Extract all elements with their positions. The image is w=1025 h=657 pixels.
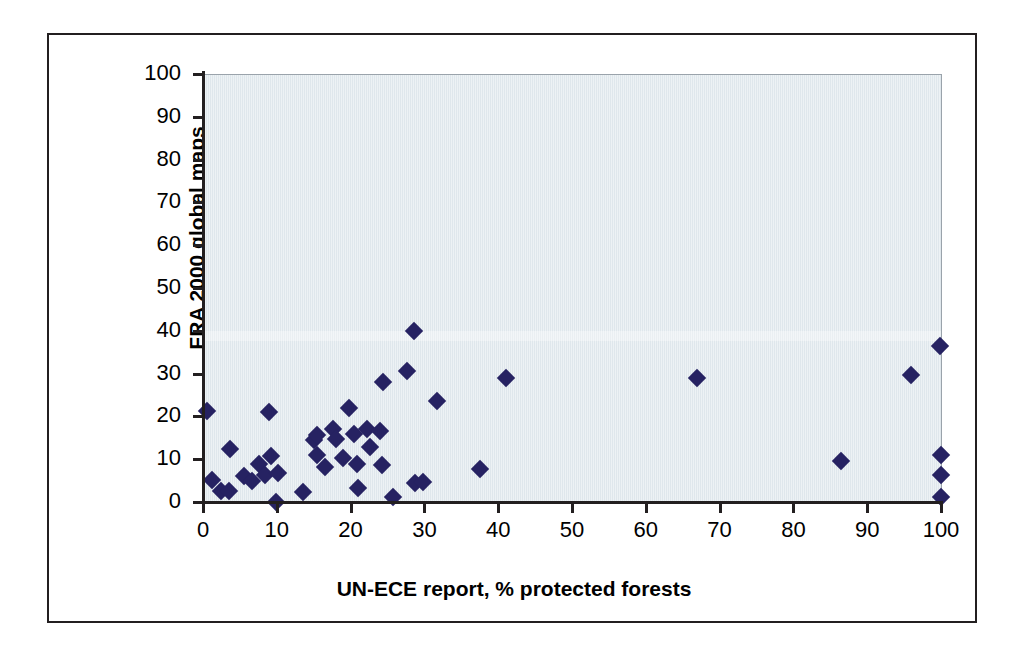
- x-axis-tick-label: 80: [758, 517, 828, 543]
- scatter-point: [831, 452, 849, 470]
- x-axis-tick: [350, 503, 353, 513]
- y-axis-tick-label: 50: [121, 274, 181, 300]
- scatter-point: [932, 445, 950, 463]
- plot-scan-band: [203, 331, 941, 341]
- y-axis-tick-label: 40: [121, 317, 181, 343]
- scatter-point: [294, 483, 312, 501]
- y-axis-tick: [193, 159, 203, 162]
- scatter-point: [374, 373, 392, 391]
- y-axis-tick: [193, 116, 203, 119]
- scatter-point: [930, 337, 948, 355]
- x-axis-tick: [571, 503, 574, 513]
- scatter-point: [372, 456, 390, 474]
- x-axis-tick-label: 10: [242, 517, 312, 543]
- x-axis-tick-label: 20: [316, 517, 386, 543]
- scatter-point: [471, 460, 489, 478]
- y-axis-tick-label: 80: [121, 146, 181, 172]
- plot-area: [203, 74, 942, 503]
- y-axis-tick: [193, 201, 203, 204]
- x-axis-tick: [940, 503, 943, 513]
- x-axis-tick-label: 30: [389, 517, 459, 543]
- x-axis-tick: [719, 503, 722, 513]
- scatter-point: [220, 439, 238, 457]
- scatter-point: [361, 438, 379, 456]
- y-axis-tick-label: 30: [121, 360, 181, 386]
- x-axis-tick-label: 60: [611, 517, 681, 543]
- scatter-point: [349, 478, 367, 496]
- scatter-point: [397, 362, 415, 380]
- x-axis-tick: [792, 503, 795, 513]
- scatter-point: [688, 369, 706, 387]
- x-axis-tick: [276, 503, 279, 513]
- y-axis-tick: [193, 373, 203, 376]
- y-axis-tick: [193, 73, 203, 76]
- x-axis-tick-label: 70: [685, 517, 755, 543]
- figure-frame: FRA 2000 global maps % protected forests…: [47, 33, 977, 623]
- y-axis-tick-label: 100: [121, 60, 181, 86]
- x-axis-tick: [497, 503, 500, 513]
- scatter-point: [371, 421, 389, 439]
- scatter-point: [496, 369, 514, 387]
- x-axis-tick-label: 50: [537, 517, 607, 543]
- x-axis-tick-label: 90: [832, 517, 902, 543]
- y-axis-tick-label: 10: [121, 445, 181, 471]
- y-axis-tick: [193, 458, 203, 461]
- x-axis-tick-label: 100: [906, 517, 976, 543]
- y-axis-tick: [193, 287, 203, 290]
- scatter-point: [340, 398, 358, 416]
- x-axis-tick: [645, 503, 648, 513]
- y-axis-tick-label: 70: [121, 188, 181, 214]
- x-axis-tick-label: 0: [168, 517, 238, 543]
- scatter-point: [932, 466, 950, 484]
- x-axis-tick-label: 40: [463, 517, 533, 543]
- scatter-point: [428, 392, 446, 410]
- x-axis-tick: [423, 503, 426, 513]
- x-axis-title: UN-ECE report, % protected forests: [49, 577, 979, 601]
- y-axis-tick-label: 0: [121, 488, 181, 514]
- x-axis-tick: [866, 503, 869, 513]
- scatter-point: [902, 366, 920, 384]
- x-axis-tick: [202, 503, 205, 513]
- scatter-point: [260, 403, 278, 421]
- y-axis-tick-label: 60: [121, 231, 181, 257]
- y-axis-tick-label: 20: [121, 402, 181, 428]
- y-axis-tick-label: 90: [121, 103, 181, 129]
- scatter-point: [269, 464, 287, 482]
- y-axis-tick: [193, 415, 203, 418]
- scatter-point: [405, 321, 423, 339]
- y-axis-tick: [193, 330, 203, 333]
- y-axis-tick: [193, 244, 203, 247]
